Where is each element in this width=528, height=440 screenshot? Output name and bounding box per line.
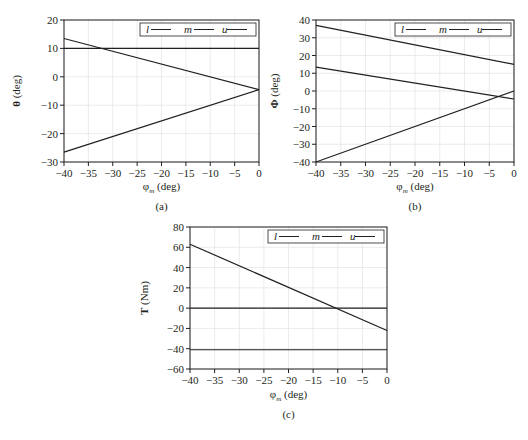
figure-canvas: −40−35−30−25−20−15−10−50−30−20−1001020lm… [0,0,528,440]
y-axis-label: θ (deg) [10,75,23,107]
y-tick-label: −40 [167,343,185,355]
legend-label: l [146,23,149,35]
x-tick-label: −10 [329,374,347,386]
x-tick-label: −5 [357,374,369,386]
x-tick-label: −5 [483,167,495,179]
legend: lmu [395,23,511,36]
chart-panel-b: −40−35−30−25−20−15−10−50−40−30−20−100102… [268,14,517,213]
y-tick-label: 10 [47,42,59,54]
y-axis-label: Φ (deg) [268,73,281,108]
x-axis-label: φm (deg) [270,388,308,403]
y-tick-label: −30 [293,138,311,150]
legend-label: m [312,230,320,242]
x-tick-label: −10 [202,167,220,179]
y-tick-label: 40 [299,14,311,26]
y-tick-label: 40 [173,262,185,274]
x-tick-label: −30 [231,374,249,386]
chart-panel-a: −40−35−30−25−20−15−10−50−30−20−1001020lm… [10,14,262,213]
panel-caption: (b) [409,200,422,213]
x-tick-label: −25 [382,167,400,179]
y-tick-label: −40 [293,156,311,168]
y-tick-label: 0 [305,85,311,97]
x-tick-label: −5 [229,167,241,179]
chart-panel-c: −40−35−30−25−20−15−10−50−60−40−200204060… [138,221,390,421]
legend-label: m [184,23,192,35]
panel-caption: (a) [155,200,168,213]
legend-label: l [401,23,404,35]
legend: lmu [140,23,256,36]
x-tick-label: −35 [332,167,350,179]
x-tick-label: −25 [129,167,147,179]
y-tick-label: −20 [293,121,311,133]
y-tick-label: −20 [167,322,185,334]
y-tick-label: −30 [41,156,59,168]
y-tick-label: 80 [173,221,185,233]
x-tick-label: −35 [206,374,224,386]
legend: lmu [268,230,384,243]
x-tick-label: −25 [255,374,273,386]
x-axis-label: φm (deg) [396,180,434,195]
x-tick-label: −20 [406,167,424,179]
x-tick-label: −15 [305,374,323,386]
grid [190,227,387,369]
x-tick-label: −15 [431,167,449,179]
y-tick-label: 30 [299,32,311,44]
legend-label: l [274,230,277,242]
x-tick-label: −20 [153,167,171,179]
x-tick-label: −10 [456,167,474,179]
x-tick-label: −35 [80,167,98,179]
grid [64,20,259,162]
y-tick-label: −10 [41,99,59,111]
x-tick-label: −40 [307,167,325,179]
y-axis-label: T (Nm) [138,281,151,315]
x-tick-label: 0 [384,374,390,386]
x-tick-label: 0 [511,167,517,179]
y-tick-label: 60 [173,241,185,253]
y-tick-label: −60 [167,363,185,375]
x-tick-label: −30 [357,167,375,179]
x-tick-label: −30 [104,167,122,179]
panel-caption: (c) [282,408,295,421]
y-tick-label: 10 [299,67,311,79]
x-axis-label: φm (deg) [143,180,181,195]
grid [316,20,514,162]
y-tick-label: −20 [41,128,59,140]
y-tick-label: −10 [293,103,311,115]
x-tick-label: −40 [55,167,73,179]
y-tick-label: 20 [173,282,185,294]
x-tick-label: −20 [280,374,298,386]
legend-label: m [439,23,447,35]
y-tick-label: 20 [47,14,59,26]
x-tick-label: −40 [181,374,199,386]
y-tick-label: 0 [179,302,185,314]
y-tick-label: 0 [53,71,59,83]
x-tick-label: −15 [177,167,195,179]
y-tick-label: 20 [299,50,311,62]
x-tick-label: 0 [256,167,262,179]
